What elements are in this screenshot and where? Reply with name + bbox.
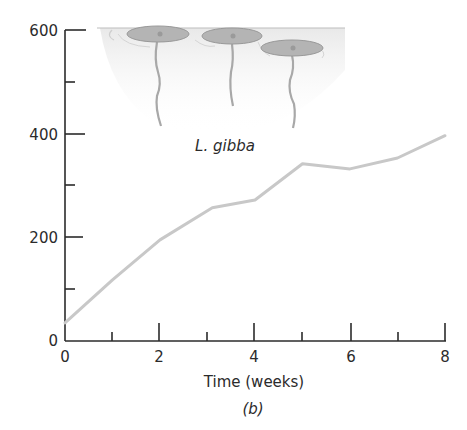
duckweed-illustration [97, 26, 345, 133]
y-tick-label: 0 [48, 332, 58, 350]
y-tick-label: 400 [29, 126, 58, 144]
y-tick-label: 200 [29, 229, 58, 247]
y-tick-label: 600 [29, 22, 58, 40]
x-tick-label: 4 [249, 348, 259, 366]
frond-node [158, 32, 163, 37]
x-axis-title: Time (weeks) [203, 373, 304, 391]
y-axis [65, 30, 86, 341]
frond-node [231, 34, 236, 39]
growth-line [65, 136, 445, 323]
panel-label: (b) [242, 400, 263, 418]
frond-node [291, 46, 296, 51]
species-annotation: L. gibba [195, 137, 255, 155]
x-tick-label: 0 [60, 348, 70, 366]
x-axis [65, 323, 446, 341]
x-tick-label: 2 [154, 348, 164, 366]
x-tick-label: 6 [346, 348, 356, 366]
x-tick-label: 8 [440, 348, 450, 366]
line-chart: L. gibba 600 400 200 0 0 2 [0, 0, 467, 430]
